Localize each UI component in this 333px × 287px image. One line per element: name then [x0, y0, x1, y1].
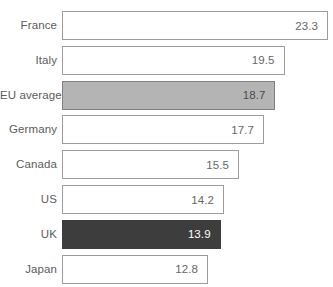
bar: 23.3 [62, 11, 328, 40]
bar-chart: France23.3Italy19.5EU average18.7Germany… [0, 0, 333, 287]
bar-row: Japan12.8 [0, 255, 333, 284]
bar-value-label: 19.5 [252, 54, 284, 66]
category-label: EU average [0, 81, 57, 110]
bar: 18.7 [62, 81, 275, 110]
bar-row: Italy19.5 [0, 46, 333, 75]
bar-value-label: 17.7 [231, 124, 263, 136]
bar-row: Germany17.7 [0, 115, 333, 144]
bar-track: 12.8 [62, 255, 333, 284]
bar-value-label: 18.7 [243, 89, 275, 101]
bar-row: France23.3 [0, 11, 333, 40]
bar-value-label: 23.3 [295, 20, 327, 32]
bar-value-label: 13.9 [188, 228, 220, 240]
category-label: UK [0, 220, 57, 249]
bar-track: 23.3 [62, 11, 333, 40]
bar-value-label: 15.5 [206, 159, 238, 171]
bar-row: Canada15.5 [0, 150, 333, 179]
category-label: Canada [0, 150, 57, 179]
bar-row: US14.2 [0, 185, 333, 214]
bar-track: 18.7 [62, 81, 333, 110]
category-label: US [0, 185, 57, 214]
category-label: Germany [0, 115, 57, 144]
bar: 17.7 [62, 115, 264, 144]
bar: 14.2 [62, 185, 224, 214]
bar-track: 13.9 [62, 220, 333, 249]
bar-row: UK13.9 [0, 220, 333, 249]
category-label: Japan [0, 255, 57, 284]
category-label: France [0, 11, 57, 40]
bar-value-label: 12.8 [175, 263, 207, 275]
bar: 12.8 [62, 255, 208, 284]
bar-track: 14.2 [62, 185, 333, 214]
bar-track: 15.5 [62, 150, 333, 179]
bar-row: EU average18.7 [0, 81, 333, 110]
bar-value-label: 14.2 [191, 194, 223, 206]
bar: 13.9 [62, 220, 221, 249]
bar: 15.5 [62, 150, 239, 179]
bar-track: 17.7 [62, 115, 333, 144]
bar-track: 19.5 [62, 46, 333, 75]
chart-plot-area: France23.3Italy19.5EU average18.7Germany… [0, 0, 333, 287]
category-label: Italy [0, 46, 57, 75]
bar: 19.5 [62, 46, 285, 75]
